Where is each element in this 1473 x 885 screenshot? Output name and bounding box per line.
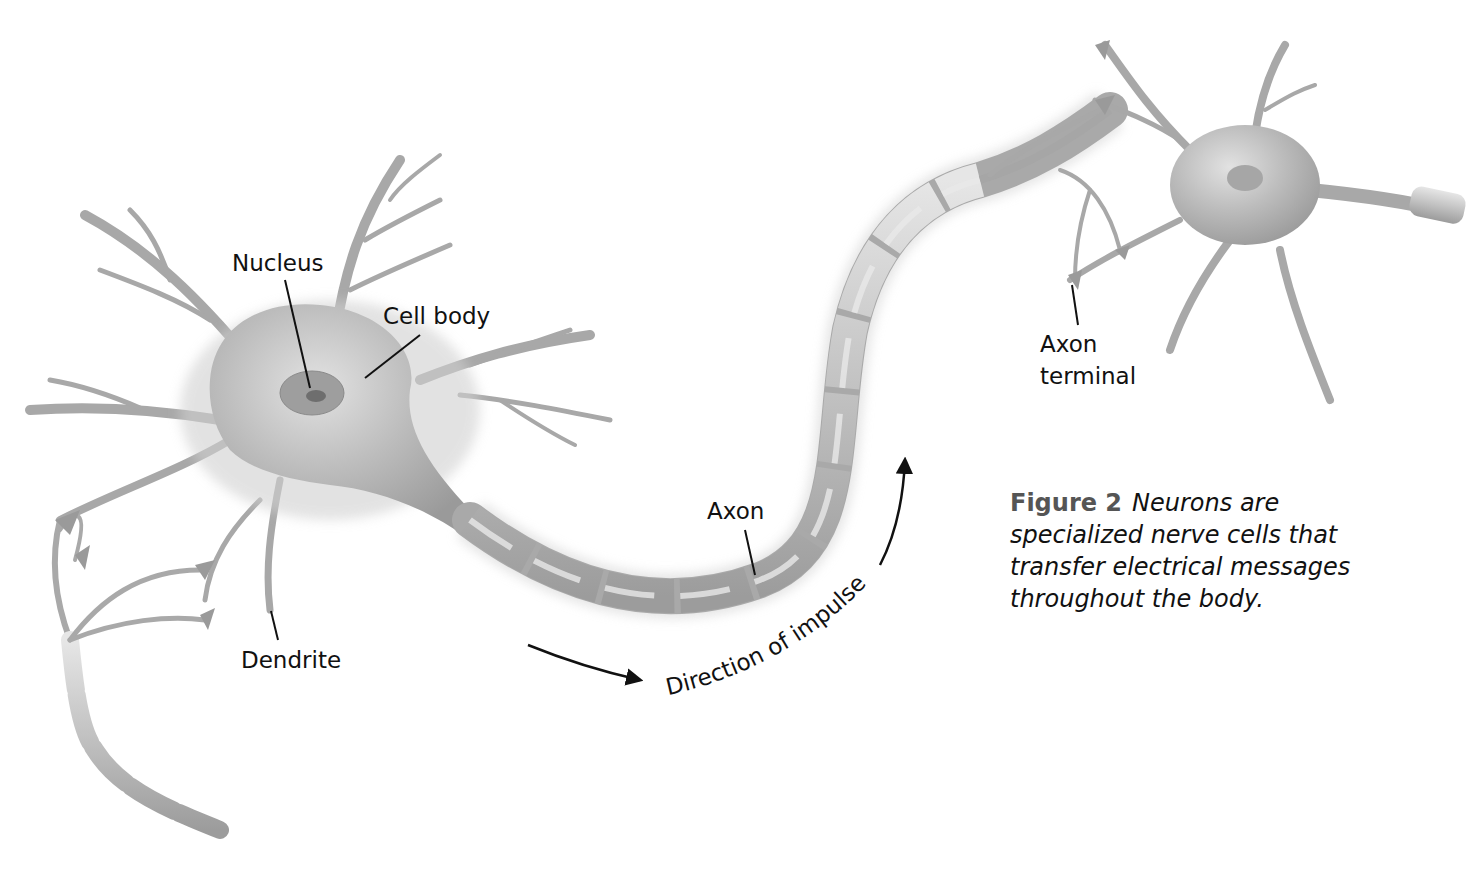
axon-terminal-label-line1: Axon — [1040, 328, 1136, 360]
neuron-illustration: Direction of impulse — [0, 0, 1473, 885]
cell-body-label: Cell body — [383, 303, 490, 331]
axon-terminal-label-line2: terminal — [1040, 360, 1136, 392]
figure-number: Figure 2 — [1010, 489, 1122, 517]
figure-caption: Figure 2Neurons are specialized nerve ce… — [1010, 487, 1390, 615]
axon-terminal-label: Axon terminal — [1040, 328, 1136, 392]
dendrite-label: Dendrite — [241, 647, 341, 675]
left-incoming-axon — [55, 516, 220, 830]
arrow-right-icon — [528, 645, 640, 680]
nucleus-label: Nucleus — [232, 250, 324, 278]
arrow-up-icon — [880, 460, 905, 565]
cell-body — [180, 300, 480, 540]
dendrite-leader-line — [271, 611, 278, 640]
axon-label: Axon — [707, 498, 764, 526]
axon-terminal-leader-line — [1072, 285, 1078, 325]
